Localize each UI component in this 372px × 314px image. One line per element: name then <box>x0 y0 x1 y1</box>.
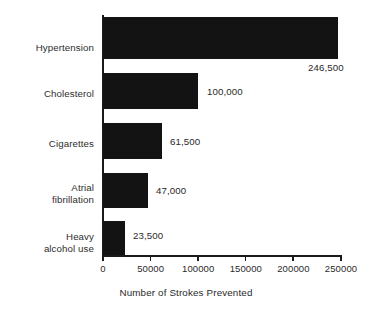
bar <box>103 221 125 255</box>
bar-value-label: 100,000 <box>207 86 243 97</box>
x-axis-tick-label: 200000 <box>277 263 309 274</box>
category-label: Cigarettes <box>49 138 94 150</box>
category-label: Cholesterol <box>44 88 94 100</box>
bar-value-label: 246,500 <box>308 62 344 73</box>
bar-chart: Hypertension 246,500 Cholesterol 100,000… <box>0 0 372 314</box>
bar <box>103 73 198 109</box>
bar-value-label: 47,000 <box>156 185 186 196</box>
x-axis-tick <box>245 256 247 261</box>
bar-value-label: 61,500 <box>170 136 200 147</box>
x-axis-tick <box>292 256 294 261</box>
x-axis-tick <box>102 256 104 261</box>
x-axis-tick <box>150 256 152 261</box>
x-axis-tick-label: 0 <box>100 263 105 274</box>
bar-value-label: 23,500 <box>133 230 163 241</box>
x-axis-title: Number of Strokes Prevented <box>0 287 372 298</box>
x-axis-tick-label: 250000 <box>325 263 357 274</box>
x-axis-tick-label: 150000 <box>230 263 262 274</box>
plot-area: Hypertension 246,500 Cholesterol 100,000… <box>0 0 372 314</box>
bar <box>103 123 162 159</box>
bar <box>103 17 338 59</box>
x-axis-tick <box>340 256 342 261</box>
bar <box>103 173 148 208</box>
x-axis-tick-label: 50000 <box>137 263 164 274</box>
x-axis-tick <box>197 256 199 261</box>
x-axis-line <box>102 255 342 257</box>
category-label: Atrial fibrillation <box>52 182 94 205</box>
x-axis-tick-label: 100000 <box>182 263 214 274</box>
category-label: Hypertension <box>36 42 94 54</box>
category-label: Heavy alcohol use <box>44 231 94 254</box>
